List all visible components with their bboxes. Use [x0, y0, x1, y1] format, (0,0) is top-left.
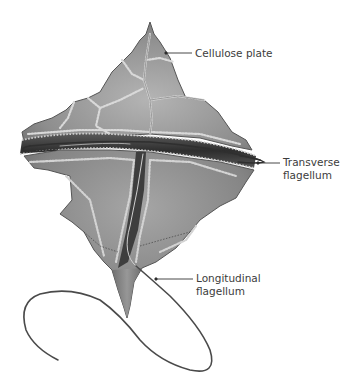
epitheca	[22, 22, 252, 150]
label-longitudinal-flagellum: Longitudinal flagellum	[196, 272, 261, 297]
label-cellulose-plate: Cellulose plate	[195, 47, 272, 60]
label-transverse-flagellum: Transverse flagellum	[283, 156, 340, 181]
dinoflagellate-diagram: Cellulose plate Transverse flagellum Lon…	[0, 0, 346, 390]
